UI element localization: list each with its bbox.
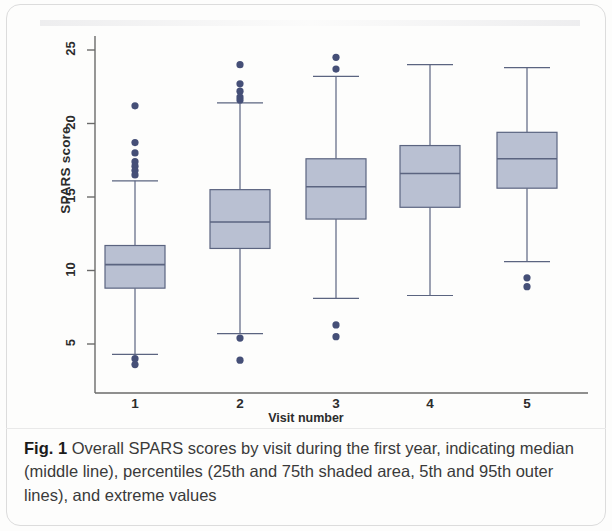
outlier-point	[236, 335, 243, 342]
y-tick-label: 15	[63, 183, 78, 209]
outlier-point	[131, 361, 138, 368]
y-tick-label: 10	[63, 256, 78, 282]
figure-caption: Fig. 1 Overall SPARS scores by visit dur…	[24, 437, 590, 507]
box-iqr	[497, 132, 557, 188]
box-iqr	[400, 146, 460, 208]
box-group	[306, 54, 366, 341]
outlier-point	[523, 274, 530, 281]
x-tick-label: 4	[415, 396, 445, 411]
outlier-point	[131, 139, 138, 146]
outlier-point	[236, 357, 243, 364]
caption-divider	[6, 428, 606, 429]
outlier-point	[131, 171, 138, 178]
outlier-point	[332, 66, 339, 73]
box-group	[497, 68, 557, 291]
x-tick-label: 5	[512, 396, 542, 411]
outlier-point	[236, 80, 243, 87]
outlier-point	[332, 54, 339, 61]
x-tick-label: 1	[120, 396, 150, 411]
outlier-point	[131, 149, 138, 156]
box-group	[105, 102, 165, 368]
figure-panel: SPARS score Visit number 510152025 12345…	[0, 0, 612, 531]
outlier-point	[236, 96, 243, 103]
box-iqr	[306, 159, 366, 219]
box-iqr	[210, 190, 270, 249]
x-tick-label: 2	[225, 396, 255, 411]
caption-figure-label: Fig. 1	[24, 439, 67, 457]
outlier-point	[236, 61, 243, 68]
y-tick-label: 5	[63, 330, 78, 356]
y-tick-label: 25	[63, 36, 78, 62]
x-axis-title: Visit number	[0, 411, 612, 425]
outlier-point	[332, 321, 339, 328]
box-iqr	[105, 246, 165, 289]
outlier-point	[131, 102, 138, 109]
x-tick-label: 3	[321, 396, 351, 411]
box-plot-canvas	[0, 0, 612, 420]
box-group	[400, 65, 460, 296]
outlier-point	[332, 333, 339, 340]
box-plot	[0, 0, 612, 420]
y-tick-label: 20	[63, 109, 78, 135]
outlier-point	[523, 283, 530, 290]
box-group	[210, 61, 270, 364]
caption-body: Overall SPARS scores by visit during the…	[24, 439, 574, 504]
